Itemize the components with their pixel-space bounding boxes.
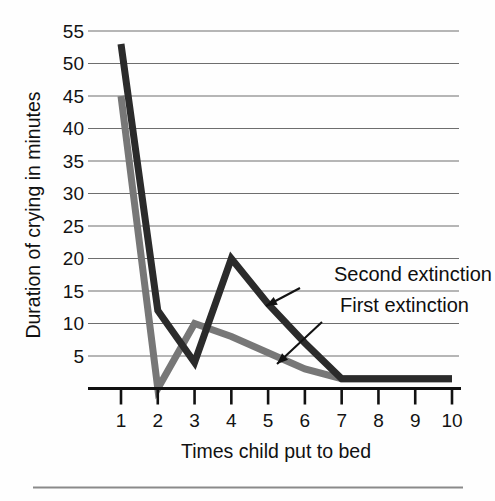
y-axis-tick-label: 55 [63, 21, 84, 42]
chart-figure: 555045403530252015105 12345678910 Times … [0, 0, 495, 501]
y-axis-tick-label: 15 [63, 281, 84, 302]
y-axis-tick-label: 25 [63, 216, 84, 237]
x-axis-tick-label: 4 [226, 410, 237, 431]
x-axis-tick-label: 1 [116, 410, 127, 431]
y-axis-tick-label: 40 [63, 118, 84, 139]
y-axis-tick-label: 20 [63, 248, 84, 269]
x-axis-tick-label: 8 [373, 410, 384, 431]
x-axis-tick-label: 9 [410, 410, 421, 431]
series-annotation-label: Second extinction [334, 263, 492, 285]
x-axis-tick-label: 6 [300, 410, 311, 431]
x-axis-tick-label: 10 [441, 410, 462, 431]
y-axis-tick-label: 45 [63, 86, 84, 107]
y-axis-title: Duration of crying in minutes [22, 91, 44, 338]
series-annotation-label: First extinction [340, 294, 469, 316]
y-axis-tick-label: 30 [63, 183, 84, 204]
line-chart: 555045403530252015105 12345678910 Times … [0, 0, 495, 501]
x-axis-tick-label: 2 [152, 410, 163, 431]
y-axis-tick-label: 5 [73, 346, 84, 367]
x-axis-tick-label: 3 [189, 410, 200, 431]
x-axis-tick-label: 7 [336, 410, 347, 431]
x-axis-title: Times child put to bed [181, 440, 371, 462]
y-axis-tick-labels: 555045403530252015105 [63, 21, 84, 367]
x-axis-tick-label: 5 [263, 410, 274, 431]
y-axis-tick-label: 35 [63, 151, 84, 172]
y-axis-tick-label: 10 [63, 313, 84, 334]
y-axis-tick-label: 50 [63, 53, 84, 74]
